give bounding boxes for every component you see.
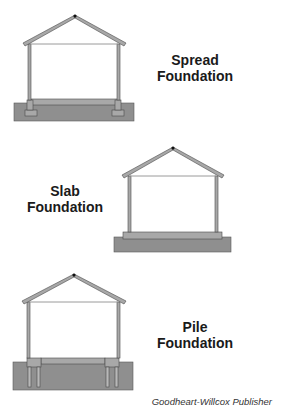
label-line-1: Pile [140,319,250,335]
stem-left [27,100,33,110]
wall-left [128,176,131,232]
label-line-2: Foundation [140,335,250,351]
pile-foundation-label: Pile Foundation [140,319,250,351]
roof-left [122,147,173,178]
slab [123,232,222,239]
wall-right [215,176,218,232]
pile-right-2 [115,367,118,387]
wall-left [28,44,31,100]
floor-beam [41,358,105,364]
pile-cap-right [105,358,119,367]
footing-right [112,110,124,116]
roof-right [75,15,126,46]
slab-foundation-label: Slab Foundation [10,183,120,215]
stem-right [115,100,121,110]
pile-left-2 [37,367,40,387]
spread-foundation-house [14,14,134,121]
ridge [73,14,76,17]
label-line-1: Spread [140,52,250,68]
roof-right [173,147,224,178]
spread-foundation-label: Spread Foundation [140,52,250,84]
label-line-2: Foundation [10,199,120,215]
roof-right [74,274,126,304]
ridge [72,273,75,276]
slab-foundation-house [114,146,231,252]
wall-left [27,302,30,358]
roof-left [22,274,74,304]
pile-right-1 [106,367,109,387]
wall-right [117,44,120,100]
pile-cap-left [27,358,41,367]
roof-left [23,15,75,46]
pile-foundation-house [13,273,133,390]
label-line-2: Foundation [140,68,250,84]
publisher-credit: Goodheart-Willcox Publisher [152,396,272,407]
ridge [171,146,174,149]
floor [31,99,119,105]
wall-right [117,302,120,358]
footing-left [25,110,37,116]
pile-left-1 [28,367,31,387]
label-line-1: Slab [10,183,120,199]
